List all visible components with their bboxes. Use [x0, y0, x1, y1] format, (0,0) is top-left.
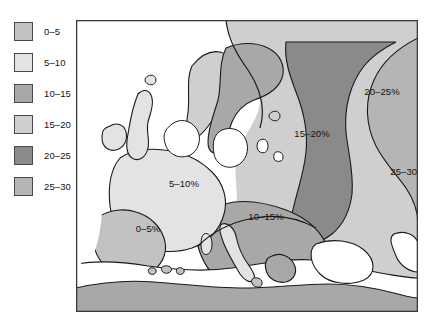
legend-item-label: 10–15 [44, 88, 71, 99]
legend-item-label: 0–5 [44, 26, 60, 37]
sicily [252, 278, 263, 287]
map-canvas: 0–5% 5–10% 10–15% 15–20% 20–25% 25–30% [76, 20, 418, 312]
north-sea [164, 121, 199, 157]
legend-item-label: 25–30 [44, 181, 71, 192]
legend-item-25-30: 25–30 [14, 177, 84, 196]
legend-item-20-25: 20–25 [14, 146, 84, 165]
north-isles [145, 75, 156, 85]
map-svg: 0–5% 5–10% 10–15% 15–20% 20–25% 25–30% [76, 20, 418, 312]
legend-swatch-icon [14, 177, 33, 196]
legend-item-10-15: 10–15 [14, 84, 84, 103]
legend-item-label: 15–20 [44, 119, 71, 130]
balearic-islands [176, 268, 184, 275]
legend-item-15-20: 15–20 [14, 115, 84, 134]
ireland [102, 124, 127, 150]
balearic-islands [161, 266, 171, 273]
sardinia [201, 233, 212, 254]
map-label-15-20: 15–20% [294, 128, 330, 139]
legend-swatch-icon [14, 115, 33, 134]
map-label-10-15: 10–15% [248, 211, 284, 222]
small-island [257, 139, 268, 153]
legend-swatch-icon [14, 146, 33, 165]
small-island [274, 152, 283, 162]
legend-item-label: 5–10 [44, 57, 66, 68]
map-label-25-30: 25–30% [390, 166, 418, 177]
legend-swatch-icon [14, 84, 33, 103]
map-label-20-25: 20–25% [364, 86, 400, 97]
legend-swatch-icon [14, 22, 33, 41]
small-island [269, 111, 280, 121]
legend-swatch-icon [14, 53, 33, 72]
map-label-5-10: 5–10% [169, 178, 200, 189]
legend: 0–5 5–10 10–15 15–20 20–25 25–30 [14, 22, 84, 196]
map-label-0-5: 0–5% [136, 223, 161, 234]
legend-item-0-5: 0–5 [14, 22, 84, 41]
map-figure: 0–5 5–10 10–15 15–20 20–25 25–30 [0, 0, 448, 326]
legend-item-label: 20–25 [44, 150, 71, 161]
balearic-islands [148, 268, 156, 275]
baltic-sea [213, 128, 247, 167]
legend-item-5-10: 5–10 [14, 53, 84, 72]
